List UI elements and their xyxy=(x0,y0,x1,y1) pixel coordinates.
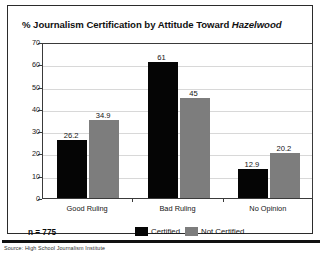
y-axis-tick-label: 20 xyxy=(18,150,40,158)
sample-size-label: n = 775 xyxy=(28,228,56,237)
legend-label: Not Certified xyxy=(201,227,244,236)
bar-value-label: 45 xyxy=(173,89,215,98)
bar-no-opinion-not-certified xyxy=(270,153,300,198)
y-axis-tick-label: 40 xyxy=(18,106,40,114)
footer-divider xyxy=(2,240,320,243)
y-axis-tick-label: 10 xyxy=(18,173,40,181)
bar-no-opinion-certified xyxy=(238,169,268,198)
chart-title-case-name: Hazelwood xyxy=(232,19,282,30)
bar-bad-ruling-not-certified xyxy=(180,98,210,198)
bar-value-label: 61 xyxy=(141,53,183,62)
legend-item-certified[interactable]: Certified xyxy=(135,227,180,236)
x-axis-tick-mark xyxy=(132,198,133,202)
chart-title-prefix: % Journalism Certification by Attitude T… xyxy=(22,19,232,30)
x-axis-tick-marks xyxy=(42,198,313,203)
y-axis: 010203040506070 xyxy=(18,39,40,203)
y-axis-tick-label: 60 xyxy=(18,61,40,69)
source-note: Source: High School Journalism Institute xyxy=(4,245,105,251)
bar-good-ruling-certified xyxy=(57,140,87,198)
x-axis-category-label: Bad Ruling xyxy=(133,204,223,213)
y-axis-tick-label: 70 xyxy=(18,39,40,47)
bar-value-label: 20.2 xyxy=(263,144,305,153)
bar-bad-ruling-certified xyxy=(148,62,178,198)
y-axis-tick-label: 50 xyxy=(18,84,40,92)
gridline xyxy=(43,66,312,67)
bar-value-label: 12.9 xyxy=(231,160,273,169)
legend-swatch-icon xyxy=(185,227,198,236)
x-axis-category-label: Good Ruling xyxy=(42,204,132,213)
y-axis-tick-label: 30 xyxy=(18,128,40,136)
chart-title: % Journalism Certification by Attitude T… xyxy=(22,19,282,30)
plot-area xyxy=(42,43,313,199)
x-axis-category-label: No Opinion xyxy=(223,204,313,213)
chart-card: % Journalism Certification by Attitude T… xyxy=(7,5,313,234)
x-axis-tick-mark xyxy=(223,198,224,202)
legend-swatch-icon xyxy=(135,227,148,236)
legend-item-not-certified[interactable]: Not Certified xyxy=(185,227,244,236)
bar-good-ruling-not-certified xyxy=(89,120,119,198)
chart-legend: CertifiedNot Certified xyxy=(135,227,244,236)
bar-value-label: 26.2 xyxy=(50,131,92,140)
chart-figure: % Journalism Certification by Attitude T… xyxy=(0,0,322,253)
bar-value-label: 34.9 xyxy=(82,111,124,120)
legend-label: Certified xyxy=(151,227,180,236)
y-axis-tick-label: 0 xyxy=(18,195,40,203)
